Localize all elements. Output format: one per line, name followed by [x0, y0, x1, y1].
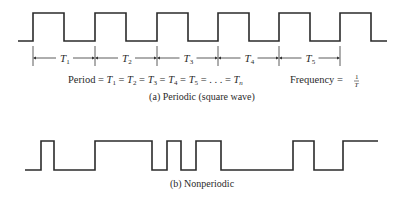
- period-label-1: T1: [60, 52, 70, 66]
- arrowhead-icon: [95, 57, 98, 60]
- arrowhead-icon: [154, 57, 157, 60]
- period-equation: Period = T1 = T2 = T3 = T4 = T5 = . . . …: [68, 74, 243, 87]
- arrowhead-icon: [215, 57, 218, 60]
- nonperiodic-caption: (b) Nonperiodic: [170, 178, 235, 190]
- period-equation-text: Period = T1 = T2 = T3 = T4 = T5 = . . . …: [68, 74, 243, 87]
- nonperiodic-wave-line: [25, 141, 378, 170]
- periodic-square-wave: T1T2T3T4T5: [18, 13, 387, 66]
- arrowhead-icon: [157, 57, 160, 60]
- square-wave-line: [18, 13, 387, 41]
- period-label-3: T3: [184, 52, 194, 66]
- arrowhead-icon: [92, 57, 95, 60]
- arrowhead-icon: [33, 57, 36, 60]
- waveform-diagram: T1T2T3T4T5 Period = T1 = T2 = T3 = T4 = …: [0, 0, 405, 202]
- arrowhead-icon: [218, 57, 221, 60]
- period-label-5: T5: [306, 52, 316, 66]
- frequency-numerator: 1: [355, 73, 359, 81]
- frequency-denominator: T: [355, 81, 360, 89]
- arrowhead-icon: [337, 57, 340, 60]
- periodic-caption: (a) Periodic (square wave): [149, 91, 255, 103]
- period-label-4: T4: [245, 52, 255, 66]
- period-labels: T1T2T3T4T5: [60, 52, 316, 66]
- period-label-2: T2: [122, 52, 132, 66]
- arrowhead-icon: [279, 57, 282, 60]
- frequency-label: Frequency =: [290, 74, 343, 85]
- arrowhead-icon: [276, 57, 279, 60]
- frequency-equation: Frequency = 1 T: [290, 73, 360, 89]
